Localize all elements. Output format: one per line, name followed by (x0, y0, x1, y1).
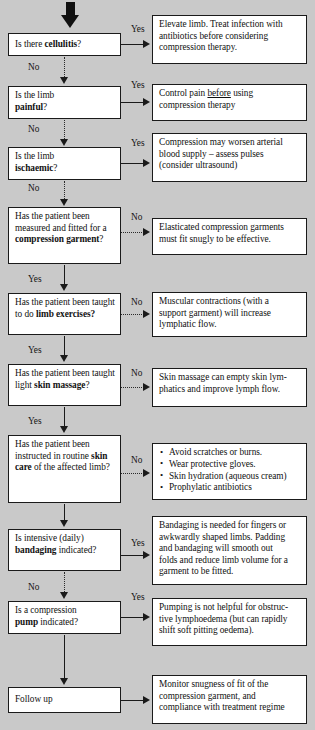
arrowhead-compression-garment-yes (60, 284, 68, 291)
arrowhead-painful-no (60, 139, 68, 146)
outcome-line: Pumping is not helpful for obstruc- (159, 602, 301, 614)
branch-label-no-skin-massage: No (131, 368, 142, 378)
list-item: Skin hydration (aqueous cream) (159, 471, 301, 483)
outcome-line: Bandaging is needed for fingers or (159, 520, 301, 532)
connector-skin-massage-yes (64, 407, 65, 428)
outcome-box-skin-massage: Skin massage can empty skin lym- phatics… (152, 368, 307, 407)
arrowhead-compression-garment-no (143, 228, 150, 236)
question-box-skin-massage[interactable]: Has the patient been taught light skin m… (8, 364, 121, 406)
connector-cellulitis-yes (121, 44, 144, 45)
outcome-box-follow-up: Monitor snugness of fit of the compressi… (152, 675, 307, 724)
question-box-follow-up[interactable]: Follow up (8, 687, 121, 713)
outcome-line: blood supply – assess pulses (159, 149, 301, 161)
follow-up-label: Follow up (15, 694, 53, 706)
question-text: Is the limb (15, 90, 115, 102)
question-box-skin-care[interactable]: Has the patient been instructed in routi… (8, 435, 121, 503)
outcome-line: compression therapy (159, 100, 301, 112)
question-text: Is there cellulitis? (15, 39, 81, 51)
outcome-line: tive lymphoedema (but can rapidly (159, 614, 301, 626)
list-item: Wear protective gloves. (159, 459, 301, 471)
connector-ischaemic-no (64, 181, 65, 201)
arrowhead-cellulitis-yes (143, 40, 150, 48)
question-box-limb-exercises[interactable]: Has the patient been taught to do limb e… (8, 293, 121, 335)
outcome-line: and bandaging will smooth out (159, 543, 301, 555)
question-box-bandaging[interactable]: Is intensive (daily) bandaging indicated… (8, 529, 121, 571)
connector-bandaging-no (64, 572, 65, 594)
outcome-line: support garment) will increase (159, 308, 301, 320)
arrowhead-compression-pump-down (60, 678, 68, 685)
arrowhead-ischaemic-yes (143, 159, 150, 167)
connector-painful-no (64, 120, 65, 141)
branch-label-yes-cellulitis: Yes (131, 24, 145, 34)
arrowhead-bandaging-yes (143, 551, 150, 559)
connector-ischaemic-yes (121, 163, 144, 164)
question-box-ischaemic[interactable]: Is the limb ischaemic? (8, 147, 121, 180)
outcome-line: Control pain before using (159, 88, 301, 100)
outcome-line: compliance with treatment regime (159, 702, 301, 714)
connector-bandaging-yes (121, 555, 144, 556)
connector-limb-exercises-yes (64, 336, 65, 357)
connector-skin-care-no (121, 473, 144, 474)
arrowhead-skin-massage-no (143, 383, 150, 391)
question-box-compression-pump[interactable]: Is a compression pump indicated? (8, 601, 121, 634)
question-text: Has the patient been measured and fitted… (15, 211, 115, 246)
question-box-compression-garment[interactable]: Has the patient been measured and fitted… (8, 207, 121, 264)
outcome-line: folds and reduce limb volume for a (159, 555, 301, 567)
down-label-no-bandaging: No (28, 582, 39, 592)
branch-label-yes-painful: Yes (131, 80, 145, 90)
branch-label-yes-ischaemic: Yes (131, 138, 145, 148)
connector-cellulitis-no (64, 57, 65, 79)
outcome-line: phatics and improve lymph flow. (159, 384, 301, 396)
outcome-line: awkwardly shaped limbs. Padding (159, 532, 301, 544)
question-text: Has the patient been taught light skin m… (15, 368, 115, 391)
entry-arrow-icon (61, 2, 80, 28)
question-box-painful[interactable]: Is the limb painful? (8, 86, 121, 119)
down-label-yes-compression-garment: Yes (28, 274, 42, 284)
outcome-line: lymphatic flow. (159, 319, 301, 331)
outcome-line: shift soft pitting oedema). (159, 625, 301, 637)
arrowhead-ischaemic-no (60, 199, 68, 206)
flowchart-canvas: Is there cellulitis? Yes Elevate limb. T… (0, 0, 315, 730)
question-text-bold: painful? (15, 102, 115, 114)
connector-compression-pump-yes (121, 617, 144, 618)
arrowhead-follow-up (143, 696, 150, 704)
question-box-cellulitis[interactable]: Is there cellulitis? (8, 33, 121, 56)
outcome-line: Compression may worsen arterial (159, 137, 301, 149)
down-label-no-ischaemic: No (28, 183, 39, 193)
branch-label-no-limb-exercises: No (131, 297, 142, 307)
arrowhead-skin-massage-yes (60, 426, 68, 433)
connector-compression-garment-yes (64, 265, 65, 286)
down-label-yes-skin-massage: Yes (28, 416, 42, 426)
branch-label-yes-bandaging: Yes (131, 538, 145, 548)
outcome-line: compression garment, and (159, 691, 301, 703)
outcome-line: compression therapy. (159, 42, 301, 54)
connector-compression-pump-down (64, 635, 65, 680)
down-label-yes-limb-exercises: Yes (28, 345, 42, 355)
list-item: Avoid scratches or burns. (159, 447, 301, 459)
arrowhead-skin-care-no (143, 469, 150, 477)
branch-label-no-compression-garment: No (131, 212, 142, 222)
connector-limb-exercises-no (121, 314, 144, 315)
connector-follow-up (121, 700, 144, 701)
question-text: Is a compression (15, 605, 115, 617)
outcome-box-compression-pump: Pumping is not helpful for obstruc- tive… (152, 598, 307, 646)
arrowhead-limb-exercises-yes (60, 355, 68, 362)
outcome-box-painful: Control pain before using compression th… (152, 84, 307, 121)
arrowhead-limb-exercises-no (143, 310, 150, 318)
list-item: Prophylatic antibiotics (159, 482, 301, 494)
question-text: Is the limb (15, 151, 115, 163)
question-text: Is intensive (daily) bandaging indicated… (15, 533, 115, 556)
outcome-box-limb-exercises: Muscular contractions (with a support ga… (152, 292, 307, 337)
branch-label-yes-compression-pump: Yes (131, 592, 145, 602)
connector-compression-garment-no (121, 232, 144, 233)
outcome-line: Muscular contractions (with a (159, 296, 301, 308)
connector-skin-massage-no (121, 387, 144, 388)
question-text: Has the patient been taught to do limb e… (15, 297, 115, 320)
arrowhead-painful-yes (143, 98, 150, 106)
outcome-line: (consider ultrasound) (159, 160, 301, 172)
outcome-box-ischaemic: Compression may worsen arterial blood su… (152, 133, 307, 182)
outcome-line: garment to be fitted. (159, 566, 301, 578)
outcome-line: Monitor snugness of fit of the (159, 679, 301, 691)
arrowhead-bandaging-no (60, 592, 68, 599)
arrowhead-compression-pump-yes (143, 613, 150, 621)
